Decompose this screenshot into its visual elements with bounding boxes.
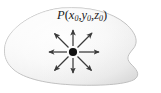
point-label: P(x0,y0,z0) xyxy=(57,9,107,23)
point-marker-dot xyxy=(69,48,77,56)
point-label-prefix: P xyxy=(57,8,65,22)
point-label-close-paren: ) xyxy=(103,8,107,22)
point-in-region-figure: P(x0,y0,z0) xyxy=(0,0,161,93)
